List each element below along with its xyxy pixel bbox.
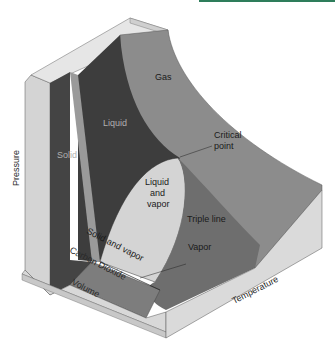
- label-triple-line: Triple line: [187, 214, 226, 224]
- pvt-surface-diagram: Gas Liquid Solid Liquid and vapor Critic…: [0, 0, 335, 346]
- label-vapor: Vapor: [188, 242, 211, 252]
- label-liquid-vapor-3: vapor: [147, 199, 170, 209]
- axis-label-pressure: Pressure: [11, 150, 21, 186]
- label-critical-2: point: [214, 141, 234, 151]
- label-gas: Gas: [155, 72, 172, 82]
- label-critical-1: Critical: [214, 130, 242, 140]
- label-liquid-vapor-2: and: [150, 188, 165, 198]
- label-liquid-vapor-1: Liquid: [145, 177, 169, 187]
- label-liquid: Liquid: [103, 118, 127, 128]
- block-left-face: [25, 75, 50, 295]
- label-solid: Solid: [57, 150, 77, 160]
